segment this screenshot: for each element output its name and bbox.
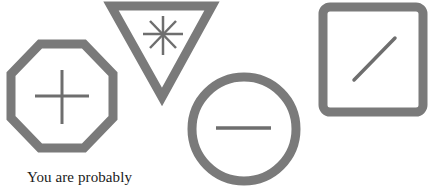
- triangle-asterisk-icon: [111, 6, 212, 97]
- operator-shapes-figure: [0, 0, 430, 192]
- square-slash-icon: [323, 7, 423, 112]
- caption-text: You are probably: [27, 169, 132, 186]
- circle-minus-icon: [192, 77, 296, 181]
- octagon-plus-icon: [11, 44, 113, 148]
